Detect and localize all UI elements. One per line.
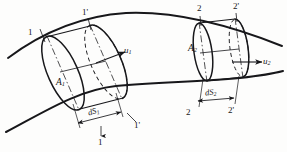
tube1-generator-bottom	[80, 98, 123, 109]
tube2-longitudinal-axis	[200, 49, 239, 53]
stream-tube-1	[33, 18, 136, 128]
ds1-dimension-line	[78, 112, 121, 123]
ds2-extension-left	[199, 79, 203, 107]
tube1-front-axis-dashdot	[47, 36, 79, 110]
tube2-back-section-visible-arc	[235, 18, 252, 77]
ds1-extension-left	[73, 104, 80, 128]
station-2-prime-tick	[236, 13, 237, 22]
lower-streamline	[6, 71, 283, 132]
tube1-longitudinal-axis	[60, 61, 106, 72]
ds2-dimension-line	[198, 98, 234, 101]
ds2-extension-right	[235, 76, 239, 104]
stream-tube-figure: 1 1' A1 u1 dS1 1 1' 2 2' A2 u2 dS2 2 2'	[0, 0, 287, 152]
station-1-prime-lower-leader	[127, 113, 136, 122]
figure-canvas	[0, 0, 287, 152]
